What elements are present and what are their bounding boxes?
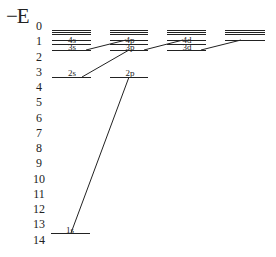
level-label-1s: 1s [50,226,90,235]
level-label-3s: 3s [52,43,92,52]
level-label-3d: 3d [167,43,207,52]
level-label-3p: 3p [110,43,150,52]
level-label-2p: 2p [110,69,150,78]
level-label-2s: 2s [52,69,92,78]
